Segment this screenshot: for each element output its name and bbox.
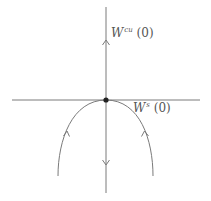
label-superscript: cu bbox=[124, 26, 132, 34]
label-argument: (0) bbox=[154, 101, 171, 115]
equilibrium-point bbox=[103, 97, 108, 102]
diagram-svg bbox=[0, 0, 211, 201]
unstable-manifold-label: Wcu (0) bbox=[111, 27, 154, 39]
phase-portrait-diagram: Wcu (0) Ws (0) bbox=[0, 0, 211, 201]
label-superscript: s bbox=[146, 101, 150, 109]
stable-manifold-label: Ws (0) bbox=[133, 102, 171, 114]
label-symbol: W bbox=[133, 101, 145, 115]
label-symbol: W bbox=[111, 26, 123, 40]
label-argument: (0) bbox=[137, 26, 154, 40]
